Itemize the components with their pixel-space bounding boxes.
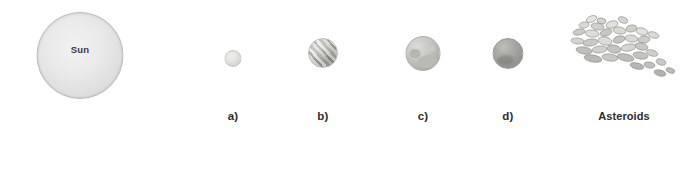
- asteroids-caption: Asteroids: [548, 110, 700, 122]
- planet-b-caption: b): [273, 110, 373, 122]
- asteroid-rock: [635, 27, 648, 37]
- planet-c-sphere: [406, 36, 441, 71]
- asteroid-rock: [606, 44, 621, 55]
- asteroid-rock: [616, 52, 634, 62]
- asteroid-rock: [576, 46, 593, 55]
- planet-c-surface-patch: [418, 55, 438, 68]
- asteroid-rock: [653, 69, 666, 78]
- asteroid-rock: [571, 37, 584, 44]
- sun-label: Sun: [38, 44, 123, 55]
- planet-d-group: d): [458, 0, 558, 140]
- planet-a-group: a): [183, 0, 283, 140]
- planet-d-sphere: [493, 38, 524, 69]
- sun-group: Sun: [0, 0, 160, 140]
- planet-d-surface-patch: [498, 55, 514, 65]
- asteroid-rock: [625, 34, 639, 43]
- planet-b-shading: [309, 39, 337, 67]
- sun-orb-wrapper: Sun: [37, 12, 124, 99]
- solar-system-diagram: Sun a) b) c): [0, 0, 700, 186]
- planet-b-orb-wrapper: [308, 38, 338, 68]
- asteroid-rock: [621, 43, 637, 52]
- asteroid-rock: [585, 29, 600, 37]
- asteroid-rock: [602, 53, 619, 62]
- asteroid-rock: [655, 58, 666, 67]
- asteroid-rock: [584, 53, 603, 63]
- asteroids-group: Asteroids: [548, 0, 700, 140]
- asteroid-field-icon: [570, 14, 678, 90]
- planet-a-caption: a): [183, 110, 283, 122]
- planet-c-surface-patch: [410, 49, 421, 58]
- planet-a-orb-wrapper: [225, 50, 242, 67]
- planet-b-sphere: [308, 38, 338, 68]
- asteroid-rock: [579, 21, 590, 28]
- planet-c-surface-patch: [427, 46, 436, 52]
- asteroid-rock: [634, 42, 648, 52]
- asteroid-rock: [612, 26, 626, 35]
- asteroid-rock: [573, 28, 586, 36]
- asteroid-rock: [583, 38, 599, 47]
- asteroid-rock: [665, 67, 675, 75]
- planet-a-sphere: [225, 50, 242, 67]
- asteroid-rock: [630, 62, 645, 71]
- asteroid-rock: [612, 35, 625, 45]
- planet-b-group: b): [273, 0, 373, 140]
- asteroid-rock: [638, 35, 651, 43]
- planet-d-caption: d): [458, 110, 558, 122]
- planet-c-orb-wrapper: [406, 36, 441, 71]
- asteroid-field-wrapper: [570, 14, 678, 94]
- asteroid-rock-layer: [571, 14, 676, 77]
- planet-d-orb-wrapper: [493, 38, 524, 69]
- sun-sphere: Sun: [37, 12, 124, 99]
- asteroid-rock: [592, 45, 608, 53]
- asteroid-rock: [617, 15, 628, 24]
- asteroid-rock: [597, 36, 612, 47]
- asteroid-rock: [644, 61, 656, 69]
- asteroid-rock: [625, 24, 637, 33]
